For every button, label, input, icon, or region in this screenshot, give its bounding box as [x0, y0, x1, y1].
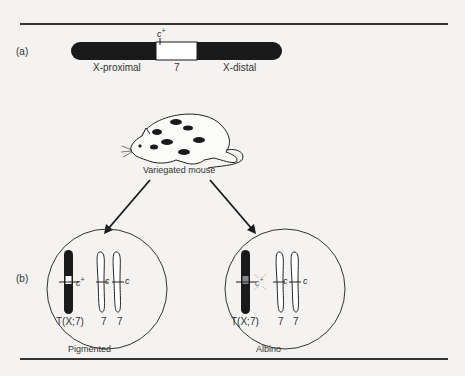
allele-label-right-7b: c	[303, 276, 308, 286]
chromosome-label-left-7b: 7	[117, 316, 123, 327]
allele-label-right-7a: c	[283, 276, 288, 286]
cell-caption-albino: Albino	[256, 344, 281, 354]
allele-label-right-translocation: c+	[255, 276, 264, 288]
arrow-to-pigmented	[104, 180, 150, 234]
cell-caption-pigmented: Pigmented	[68, 344, 111, 354]
cell-albino	[225, 229, 345, 349]
allele-label-left-7b: c	[125, 276, 130, 286]
panel-b-label: (b)	[16, 273, 28, 284]
segment-label-x-proximal: X-proximal	[93, 62, 141, 73]
segment-label-7: 7	[174, 62, 180, 73]
allele-label-left-translocation: c+	[76, 276, 85, 288]
chromosome-label-right-7b: 7	[293, 316, 299, 327]
spotted-mouse-icon	[121, 114, 243, 168]
chromosome-label-left-7a: 7	[101, 316, 107, 327]
cell-pigmented	[47, 229, 167, 349]
translocation-chromosome-linear	[71, 38, 282, 60]
translocation-label-right: T(X;7)	[231, 316, 259, 327]
segment-label-x-distal: X-distal	[223, 62, 256, 73]
chromosome-label-right-7a: 7	[278, 316, 284, 327]
mouse-caption: Variegated mouse	[143, 165, 215, 175]
gene-marker-label: c+	[157, 27, 166, 39]
arrow-to-albino	[210, 180, 256, 234]
allele-label-left-7a: c	[105, 276, 110, 286]
translocation-label-left: T(X;7)	[56, 316, 84, 327]
